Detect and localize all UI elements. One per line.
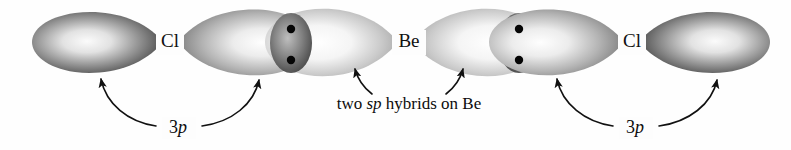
diagram-canvas: Cl Be Cl 3p 3p two sp hybrids on Be	[0, 0, 791, 150]
orbital-label-3p-right-italic: p	[633, 117, 644, 137]
arrow-sp-left	[355, 69, 372, 94]
orbital-diagram-figure: Cl Be Cl 3p 3p two sp hybrids on Be	[0, 0, 791, 150]
arrow-3p-right-inner	[557, 79, 613, 126]
arrow-3p-left-outer	[101, 79, 156, 126]
orbital-label-3p-left-prefix: 3	[169, 117, 178, 137]
atom-label-cl-left: Cl	[161, 30, 179, 51]
lobe-cl-right-3p-outer	[639, 12, 770, 73]
arrow-3p-right-outer	[659, 80, 717, 126]
lobe-cl-left-3p-outer	[32, 12, 163, 73]
caption-italic: sp	[366, 94, 381, 113]
orbital-label-3p-left-italic: p	[176, 117, 187, 137]
atom-label-cl-right: Cl	[623, 30, 641, 51]
arrow-3p-left-inner	[202, 80, 259, 126]
caption-before: two	[337, 94, 367, 113]
electron-dot	[287, 56, 295, 64]
orbital-label-3p-right-prefix: 3	[626, 117, 635, 137]
orbital-label-3p-left: 3p	[169, 117, 187, 137]
orbital-label-3p-right: 3p	[626, 117, 644, 137]
lobe-cl-right-3p-inner	[489, 10, 624, 76]
electron-dot	[515, 25, 523, 33]
sp-hybrid-caption: two sp hybrids on Be	[337, 94, 482, 113]
orbital-text-labels: 3p 3p two sp hybrids on Be	[162, 94, 653, 139]
atom-label-be-center: Be	[398, 30, 419, 51]
electron-dot	[287, 25, 295, 33]
caption-after: hybrids on Be	[382, 94, 482, 113]
electron-dot	[515, 56, 523, 64]
